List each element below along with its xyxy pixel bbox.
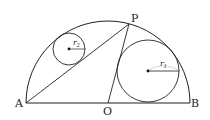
label-p: P bbox=[131, 12, 139, 25]
label-a: A bbox=[14, 97, 24, 110]
r1-label: r1 bbox=[160, 59, 167, 69]
r2-label: r2 bbox=[73, 38, 80, 48]
segment-op bbox=[108, 24, 129, 103]
semicircle-arc bbox=[26, 21, 190, 103]
geometry-diagram: r2 r1 P A O B bbox=[0, 0, 210, 120]
label-o: O bbox=[103, 105, 112, 118]
label-b: B bbox=[191, 97, 199, 110]
